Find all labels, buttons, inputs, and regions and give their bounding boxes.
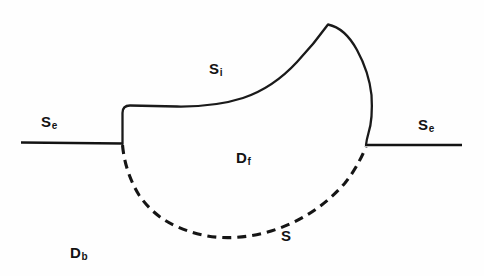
label-s-base: S	[281, 227, 291, 244]
label-se-left-base: S	[41, 113, 51, 130]
label-exterior-surface-right: Se	[418, 117, 434, 134]
label-body-domain: Db	[70, 245, 88, 262]
label-se-right-base: S	[418, 116, 428, 133]
label-exterior-surface-left: Se	[41, 114, 57, 131]
left-exterior-line	[21, 143, 123, 144]
label-db-base: D	[70, 244, 81, 261]
interface-curve	[123, 25, 372, 146]
label-se-right-sub: e	[429, 123, 435, 134]
label-df-sub: f	[248, 156, 252, 167]
label-db-sub: b	[82, 251, 88, 262]
label-si-base: S	[209, 60, 219, 77]
label-fluid-domain: Df	[236, 150, 251, 167]
diagram-canvas	[0, 0, 484, 276]
label-df-base: D	[236, 149, 247, 166]
label-si-sub: i	[220, 67, 223, 78]
label-se-left-sub: e	[52, 120, 58, 131]
diagram-figure: Se Si Se Df S Db	[0, 0, 484, 276]
label-interface-surface: Si	[209, 61, 223, 78]
label-free-surface: S	[281, 228, 292, 245]
